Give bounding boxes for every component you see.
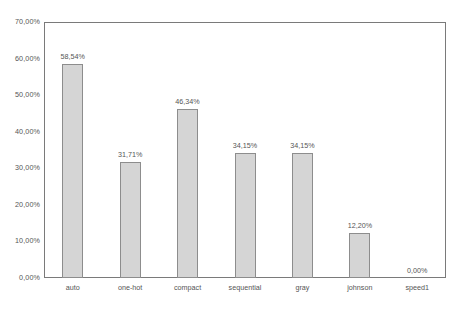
- y-axis-tick-label: 50,00%: [0, 92, 40, 99]
- bar: [292, 153, 313, 278]
- y-axis-tick-label: 30,00%: [0, 165, 40, 172]
- bar: [62, 64, 83, 278]
- y-axis-tick-label: 0,00%: [0, 274, 40, 281]
- x-axis-tick-label: sequential: [229, 284, 262, 291]
- y-axis-tick-label: 10,00%: [0, 238, 40, 245]
- bar-value-label: 34,15%: [233, 142, 257, 149]
- x-axis-tick-label: one-hot: [118, 284, 142, 291]
- x-axis-tick-label: gray: [295, 284, 309, 291]
- y-axis-tick-label: 70,00%: [0, 18, 40, 25]
- bar-value-label: 58,54%: [61, 53, 85, 60]
- bar: [235, 153, 256, 278]
- bar-value-label: 46,34%: [175, 98, 199, 105]
- bar: [120, 162, 141, 278]
- bar: [349, 233, 370, 278]
- bar-value-label: 31,71%: [118, 151, 142, 158]
- bar-chart: 0,00%10,00%20,00%30,00%40,00%50,00%60,00…: [0, 0, 462, 311]
- bar-value-label: 0,00%: [407, 267, 427, 274]
- y-axis-tick-label: 40,00%: [0, 128, 40, 135]
- x-axis-tick-label: auto: [66, 284, 80, 291]
- bar: [177, 109, 198, 278]
- x-axis-tick-label: johnson: [347, 284, 372, 291]
- bar-value-label: 12,20%: [348, 222, 372, 229]
- x-axis-tick-label: compact: [174, 284, 201, 291]
- y-axis-tick-label: 60,00%: [0, 55, 40, 62]
- x-axis-tick-label: speed1: [405, 284, 429, 291]
- bar-value-label: 34,15%: [290, 142, 314, 149]
- y-axis-tick-label: 20,00%: [0, 201, 40, 208]
